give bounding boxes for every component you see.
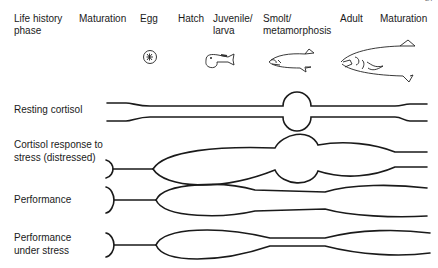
egg-icon	[144, 51, 157, 64]
larva-fish-icon	[206, 54, 234, 68]
performance-track	[106, 184, 427, 216]
smolt-fish-icon	[269, 49, 314, 72]
diagram-canvas	[0, 0, 438, 268]
resting-cortisol-track	[107, 92, 427, 131]
cortisol-response-track	[106, 134, 427, 185]
adult-fish-icon	[341, 40, 415, 82]
performance-under-stress-track	[106, 230, 430, 259]
